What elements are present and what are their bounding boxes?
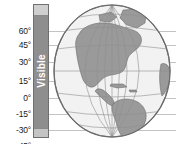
latitude-visibility-figure: 60° 45° 30° 15° 0° -15° -30° -45° Visibl… — [0, 0, 176, 144]
visible-bar-label: Visible — [36, 54, 47, 87]
visible-range-bar: Visible — [33, 4, 49, 138]
tick-label-60: 60° — [1, 27, 31, 36]
globe-svg — [53, 4, 171, 138]
tick-label-45: 45° — [1, 41, 31, 50]
tick-label-neg30: -30° — [1, 126, 31, 135]
globe — [53, 4, 171, 138]
visible-bar-cap-top — [34, 5, 48, 16]
tick-label-neg45: -45° — [1, 142, 31, 144]
visible-bar-cap-bottom — [34, 128, 48, 137]
tick-label-0: 0° — [1, 94, 31, 103]
land-africa-sliver — [160, 63, 170, 96]
tick-label-neg15: -15° — [1, 110, 31, 119]
land-caribbean-hispaniola — [129, 90, 137, 92]
tick-label-30: 30° — [1, 58, 31, 67]
tick-label-15: 15° — [1, 77, 31, 86]
